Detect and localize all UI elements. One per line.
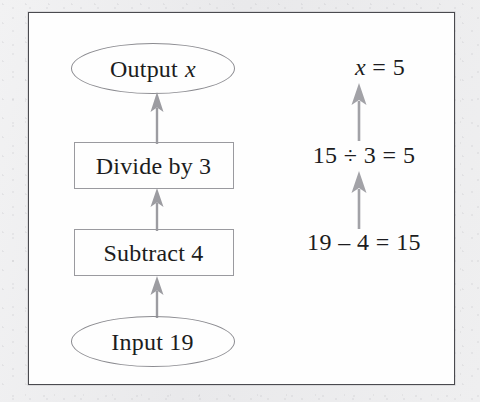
flowchart-node-input-19-label: Input 19 bbox=[111, 330, 194, 354]
figure-canvas: Output x Divide by 3 Subtract 4 Input 19… bbox=[29, 13, 454, 384]
flowchart-node-output-label: Output x bbox=[110, 57, 196, 81]
calculation-step-divide: 15 ÷ 3 = 5 bbox=[269, 143, 459, 167]
flowchart-node-divide-by-3: Divide by 3 bbox=[74, 142, 234, 189]
flowchart-node-subtract-4: Subtract 4 bbox=[74, 229, 234, 276]
flowchart-node-input-19: Input 19 bbox=[71, 316, 235, 367]
flow-arrow-subtract-to-divide bbox=[142, 188, 172, 231]
flowchart-node-output: Output x bbox=[71, 43, 235, 94]
calculation-result: x = 5 bbox=[315, 55, 445, 79]
calculation-arrow-subtract-to-divide bbox=[344, 171, 374, 229]
flowchart-node-divide-by-3-label: Divide by 3 bbox=[96, 154, 213, 178]
figure-frame: Output x Divide by 3 Subtract 4 Input 19… bbox=[28, 12, 455, 385]
flow-arrow-divide-to-output bbox=[142, 92, 172, 144]
flowchart-node-subtract-4-label: Subtract 4 bbox=[104, 241, 205, 265]
calculation-arrow-divide-to-result bbox=[344, 83, 374, 141]
flow-arrow-input-to-subtract bbox=[142, 276, 172, 318]
calculation-step-subtract: 19 – 4 = 15 bbox=[269, 230, 459, 254]
